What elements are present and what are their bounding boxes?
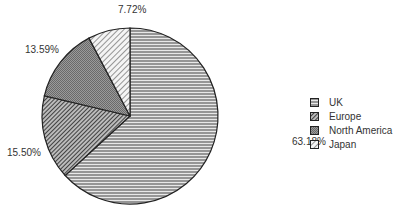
legend-label: Japan <box>329 139 356 150</box>
label-north-america-pct: 13.59% <box>25 44 59 55</box>
legend-label: UK <box>329 97 343 108</box>
legend-label: Europe <box>329 111 361 122</box>
legend-label: North America <box>329 125 392 136</box>
swatch-north-america-icon <box>310 126 319 135</box>
swatch-japan-icon <box>310 140 319 149</box>
swatch-europe-icon <box>310 112 319 121</box>
label-europe-pct: 15.50% <box>7 147 41 158</box>
swatch-uk-icon <box>310 98 319 107</box>
legend-item-europe: Europe <box>310 109 392 123</box>
legend: UK Europe North America Japan <box>310 95 392 151</box>
legend-item-uk: UK <box>310 95 392 109</box>
legend-item-north-america: North America <box>310 123 392 137</box>
pie-slices <box>42 28 218 204</box>
legend-item-japan: Japan <box>310 137 392 151</box>
label-japan-pct: 7.72% <box>118 4 146 15</box>
